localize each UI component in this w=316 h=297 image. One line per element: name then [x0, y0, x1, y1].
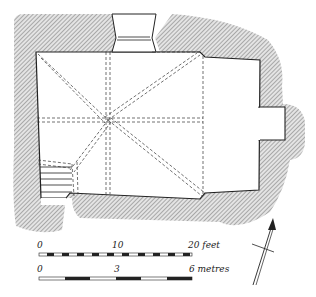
floor-plan-drawing — [0, 0, 316, 297]
scale-bar-metres — [39, 277, 192, 280]
scale-feet-tick-0: 0 — [37, 241, 43, 250]
scale-metres-tick-6: 6 metres — [189, 265, 229, 274]
scale-metres-tick-0: 0 — [37, 265, 43, 274]
scale-feet-tick-20: 20 feet — [188, 241, 220, 250]
scale-feet-tick-10: 10 — [112, 241, 123, 250]
scale-metres-tick-3: 3 — [114, 265, 120, 274]
north-arrow-icon — [252, 218, 276, 285]
scale-bar-feet — [39, 253, 192, 256]
